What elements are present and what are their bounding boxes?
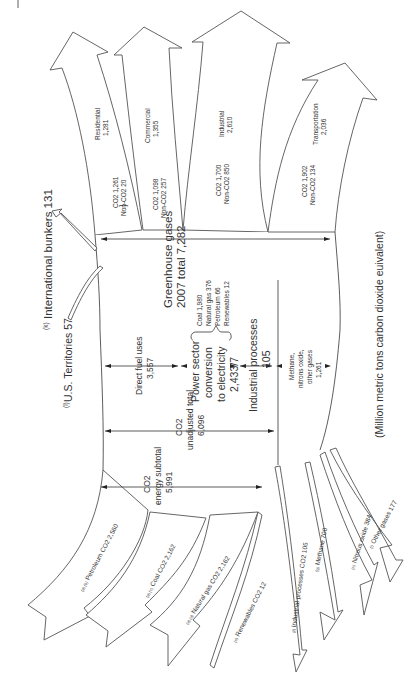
svg-text:Methane,: Methane,	[288, 353, 295, 380]
svg-text:Renewables 12: Renewables 12	[223, 281, 230, 326]
svg-text:energy subtotal: energy subtotal	[153, 447, 163, 505]
svg-text:(l): (l)	[62, 402, 70, 408]
other-gases-label: Methane, nitrons oxide, other gases 1,26…	[288, 349, 322, 388]
units-label: (Million metric tons carbon dioxide euiv…	[373, 231, 385, 438]
svg-text:CO2: CO2	[174, 418, 184, 436]
inflow-arrows	[28, 448, 403, 672]
svg-text:Petroleum 66: Petroleum 66	[214, 287, 221, 326]
residential-non-co2: Non-CO2 20	[120, 179, 127, 216]
svg-text:Coal 1,980: Coal 1,980	[196, 294, 203, 326]
arrow-transportation	[268, 63, 377, 232]
svg-text:to electricity: to electricity	[215, 346, 227, 402]
svg-text:Natural gas 376: Natural gas 376	[205, 280, 213, 326]
svg-text:3,557: 3,557	[145, 357, 155, 379]
residential-label: Residential	[94, 107, 101, 140]
svg-text:conversion: conversion	[202, 347, 214, 398]
transportation-total: 2,036	[320, 118, 327, 135]
svg-text:Greenhouse gases: Greenhouse gases	[162, 211, 174, 308]
main-right-edge	[320, 232, 340, 450]
us-territories-label: (l) U.S. Territories 57	[62, 318, 74, 408]
arrow-international-bunkers	[52, 209, 97, 251]
svg-text:6,096: 6,096	[196, 414, 206, 436]
commercial-total: 1,355	[152, 120, 159, 137]
industrial-label: Industrial	[218, 110, 225, 137]
svg-text:CO2: CO2	[142, 475, 152, 493]
other-gases-inflow-label: (i) Other gases 177	[367, 499, 399, 550]
ghg-flow-diagram: Residential 1,281 CO2 1,261 Non-CO2 20 }…	[0, 0, 415, 686]
residential-co2: CO2 1,261	[112, 176, 119, 208]
industrial-non-co2: Non-CO2 850	[223, 164, 230, 204]
residential-brace: }	[118, 204, 128, 207]
industrial-total: 2,610	[226, 116, 233, 133]
svg-text:(k): (k)	[42, 322, 50, 330]
svg-text:Direct fuel uses: Direct fuel uses	[134, 336, 144, 395]
residential-total: 1,281	[102, 119, 109, 136]
transportation-co2: CO2 1,902	[301, 165, 308, 197]
svg-text:other gases: other gases	[306, 349, 314, 384]
svg-text:International bunkers 131: International bunkers 131	[42, 189, 54, 319]
svg-text:nitrons oxide,: nitrons oxide,	[297, 349, 304, 388]
svg-text:5,991: 5,991	[164, 471, 174, 493]
international-bunkers-label: (k) International bunkers 131	[42, 189, 54, 330]
transportation-non-co2: Non-CO2 134	[309, 165, 316, 205]
svg-text:105: 105	[260, 350, 272, 368]
svg-text:2007 total 7,282: 2007 total 7,282	[175, 226, 187, 309]
svg-text:unadjusted total: unadjusted total	[185, 390, 195, 450]
svg-text:1,261: 1,261	[315, 361, 322, 378]
industrial-co2: CO2 1,700	[215, 164, 222, 196]
commercial-label: Commercial	[144, 108, 151, 143]
svg-text:U.S. Territories 57: U.S. Territories 57	[62, 318, 74, 402]
svg-text:2,433/7: 2,433/7	[228, 357, 240, 392]
commercial-co2: CO2 1,098	[152, 178, 159, 210]
transportation-label: Transportation	[312, 103, 320, 145]
svg-text:Industrial processes: Industrial processes	[247, 319, 259, 412]
